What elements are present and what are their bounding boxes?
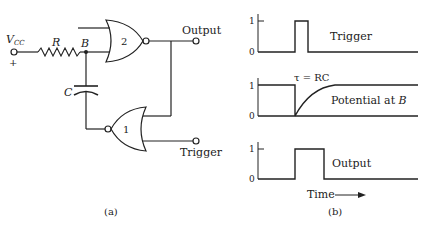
resistor-label: R	[51, 36, 60, 49]
plus-label: +	[9, 57, 17, 68]
tick-label: 1	[249, 81, 255, 91]
trigger-label: Trigger	[180, 146, 223, 159]
output-plot: 1 0 Output	[249, 142, 418, 184]
node-b-label: B	[80, 37, 89, 50]
circuit-diagram: VCC + R B 2 Output C 1	[6, 20, 223, 217]
output-terminal	[193, 38, 199, 44]
tick-label: 0	[249, 47, 255, 57]
output-plot-label: Output	[332, 157, 372, 170]
resistor	[38, 48, 80, 56]
capacitor-label: C	[64, 86, 73, 99]
trigger-plot: 1 0 Trigger	[249, 14, 418, 57]
tick-label: 1	[249, 144, 255, 154]
trigger-terminal	[193, 138, 199, 144]
panel-a-label: (a)	[104, 206, 118, 217]
time-axis-label: Time	[307, 188, 335, 201]
tick-label: 0	[249, 111, 255, 121]
panel-b-label: (b)	[328, 206, 342, 217]
gate-2-bubble	[143, 38, 149, 44]
figure: VCC + R B 2 Output C 1	[0, 0, 429, 229]
gate-1-bubble	[105, 126, 111, 132]
potential-plot: 1 0 τ = RC Potential at B	[249, 72, 418, 121]
tick-label: 0	[249, 174, 255, 184]
gate-2-label: 2	[121, 36, 127, 47]
output-label: Output	[182, 24, 222, 37]
trigger-plot-label: Trigger	[330, 30, 373, 43]
potential-plot-label: Potential at B	[331, 94, 407, 107]
timing-diagram: 1 0 Trigger 1 0 τ = RC Potential at B 1 …	[249, 14, 418, 217]
gate-1-label: 1	[123, 124, 129, 135]
vcc-label: VCC	[6, 33, 25, 47]
time-arrow-head-icon	[358, 192, 366, 198]
tick-label: 1	[249, 16, 255, 26]
tau-label: τ = RC	[294, 72, 330, 83]
vcc-terminal	[11, 49, 17, 55]
